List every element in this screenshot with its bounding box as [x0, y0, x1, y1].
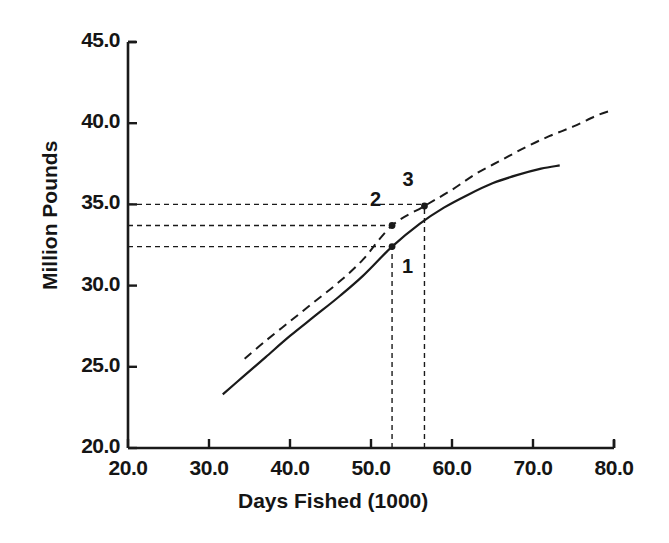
annotation-label-1: 1: [402, 255, 413, 278]
x-tick-label: 30.0: [180, 456, 238, 480]
x-tick-label: 80.0: [585, 456, 643, 480]
x-axis-ticks: [128, 439, 614, 448]
series-solid-yield-curve: [223, 165, 560, 394]
x-tick-label: 50.0: [342, 456, 400, 480]
y-tick-label: 25.0: [62, 353, 120, 377]
axis-lines: [128, 42, 614, 448]
x-tick-label: 70.0: [504, 456, 562, 480]
annotation-dot-3: [421, 203, 428, 210]
guide-lines: [128, 204, 424, 448]
annotation-label-2: 2: [370, 188, 381, 211]
y-tick-label: 35.0: [62, 190, 120, 214]
x-tick-label: 40.0: [261, 456, 319, 480]
annotation-dot-1: [389, 243, 396, 250]
y-tick-label: 30.0: [62, 272, 120, 296]
x-axis-title: Days Fished (1000): [238, 489, 428, 513]
annotation-dot-2: [389, 222, 396, 229]
data-curves: [223, 110, 613, 394]
series-dashed-yield-curve: [245, 110, 613, 358]
annotation-label-3: 3: [402, 168, 413, 191]
x-tick-label: 60.0: [423, 456, 481, 480]
chart-figure: 20.025.030.035.040.045.0 20.030.040.050.…: [0, 0, 669, 543]
y-axis-ticks: [128, 42, 137, 448]
y-tick-label: 45.0: [62, 28, 120, 52]
y-axis-title: Million Pounds: [38, 141, 62, 290]
x-tick-label: 20.0: [99, 456, 157, 480]
y-tick-label: 40.0: [62, 109, 120, 133]
y-tick-label: 20.0: [62, 434, 120, 458]
